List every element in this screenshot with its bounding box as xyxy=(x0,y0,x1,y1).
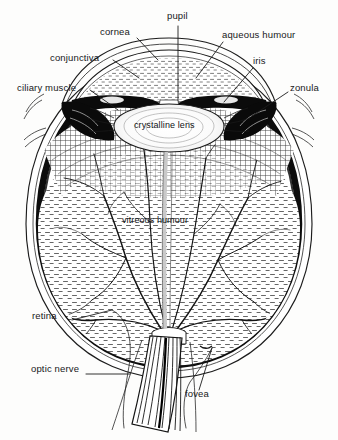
label-cornea: cornea xyxy=(100,27,130,37)
label-iris: iris xyxy=(253,56,266,66)
label-vitreous-humour: vitreous humour xyxy=(122,216,188,225)
label-retina: retina xyxy=(32,311,57,321)
label-conjunctiva: conjunctiva xyxy=(50,53,99,63)
eye-anatomy-figure: pupil cornea aqueous humour conjunctiva … xyxy=(0,0,338,440)
label-fovea: fovea xyxy=(185,389,209,399)
label-aqueous-humour: aqueous humour xyxy=(222,30,295,40)
label-ciliary-muscle: ciliary muscle xyxy=(17,83,76,93)
label-pupil: pupil xyxy=(167,11,188,21)
label-optic-nerve: optic nerve xyxy=(31,364,79,374)
label-zonula: zonula xyxy=(290,83,319,93)
label-crystalline-lens: crystalline lens xyxy=(134,121,195,130)
